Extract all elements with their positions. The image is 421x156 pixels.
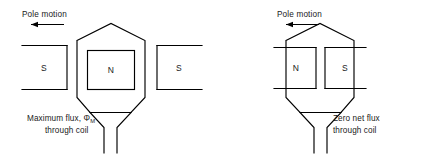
left-caption-line1-text: Maximum flux, <box>27 114 81 123</box>
left-pole-motion-arrow <box>31 22 64 27</box>
right-n-pole-label: N <box>293 63 299 73</box>
left-s-pole-label: S <box>41 63 47 73</box>
left-coil-leads <box>90 113 131 154</box>
right-caption-line1: Zero net flux <box>333 114 380 123</box>
left-caption-line2: through coil <box>45 126 89 135</box>
right-s-pole-label: S <box>342 63 348 73</box>
diagram-canvas: Pole motion S N S Maximum flux,ΦM throug… <box>0 0 421 156</box>
left-diagram-right-s-pole-label: S <box>176 63 182 73</box>
left-caption-flux-subscript: M <box>90 118 95 124</box>
left-caption-line1: Maximum flux,ΦM <box>27 114 95 124</box>
left-pole-motion-label: Pole motion <box>22 10 67 19</box>
flux-through-coil-figure: Pole motion S N S Maximum flux,ΦM throug… <box>0 0 421 156</box>
right-diagram-group: Pole motion N S Zero net flux through co… <box>274 10 380 153</box>
left-diagram-group: Pole motion S N S Maximum flux,ΦM throug… <box>22 10 202 153</box>
left-n-pole-label: N <box>108 65 114 75</box>
right-caption-line2: through coil <box>333 126 377 135</box>
right-pole-motion-label: Pole motion <box>277 10 322 19</box>
